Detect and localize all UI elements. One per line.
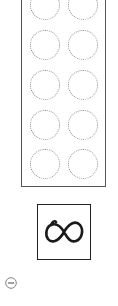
- empty-slot[interactable]: [68, 30, 98, 60]
- empty-slot[interactable]: [68, 70, 98, 100]
- slot-tray: [21, 0, 106, 187]
- empty-slot[interactable]: [68, 110, 98, 140]
- empty-slot[interactable]: [30, 149, 60, 179]
- infinity-icon: [43, 217, 85, 247]
- empty-slot[interactable]: [30, 30, 60, 60]
- empty-slot[interactable]: [30, 0, 60, 20]
- infinity-button[interactable]: [37, 204, 91, 260]
- empty-slot[interactable]: [30, 70, 60, 100]
- empty-slot[interactable]: [30, 110, 60, 140]
- empty-slot[interactable]: [68, 0, 98, 20]
- minus-circle-icon[interactable]: [5, 277, 17, 289]
- empty-slot[interactable]: [68, 149, 98, 179]
